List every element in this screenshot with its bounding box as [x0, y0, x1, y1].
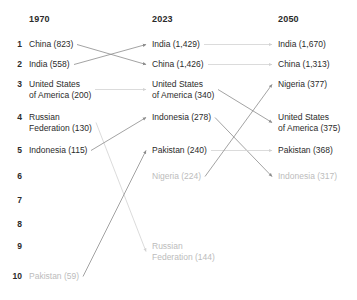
connection-indonesia-1-2 — [215, 118, 272, 177]
rank-number-2: 2 — [6, 59, 22, 69]
entry-1970-rank-10: Pakistan (59) — [29, 271, 79, 282]
entry-2023-rank-9: Russian Federation (144) — [152, 241, 215, 262]
rank-number-1: 1 — [6, 39, 22, 49]
connection-russian-federation-0-1 — [96, 123, 146, 252]
rank-number-7: 7 — [6, 195, 22, 205]
connection-pakistan-0-1 — [83, 151, 146, 277]
entry-2050-rank-6: Indonesia (317) — [278, 171, 337, 182]
rank-number-3: 3 — [6, 79, 22, 89]
rank-number-9: 9 — [6, 241, 22, 251]
connection-china-0-1 — [77, 45, 146, 65]
entry-2023-rank-5: Pakistan (240) — [152, 145, 207, 156]
connection-nigeria-1-2 — [205, 85, 272, 177]
rank-number-4: 4 — [6, 112, 22, 122]
rank-number-6: 6 — [6, 171, 22, 181]
entry-2050-rank-1: India (1,670) — [278, 39, 326, 50]
connection-united-states-of-america-1-2 — [218, 90, 272, 123]
entry-2050-rank-2: China (1,313) — [278, 59, 330, 70]
entry-2050-rank-5: Pakistan (368) — [278, 145, 333, 156]
connection-indonesia-0-1 — [91, 118, 146, 151]
connection-india-0-1 — [74, 45, 146, 65]
slope-chart: 19702023205012345678910China (823)India … — [0, 0, 357, 300]
entry-2023-rank-6: Nigeria (224) — [152, 171, 201, 182]
entry-1970-rank-1: China (823) — [29, 39, 73, 50]
entry-1970-rank-5: Indonesia (115) — [29, 145, 87, 156]
rank-number-10: 10 — [6, 271, 22, 281]
entry-2023-rank-3: United States of America (340) — [152, 79, 214, 100]
entry-2023-rank-4: Indonesia (278) — [152, 112, 211, 123]
entry-2023-rank-1: India (1,429) — [152, 39, 200, 50]
entry-2023-rank-2: China (1,426) — [152, 59, 204, 70]
rank-number-8: 8 — [6, 219, 22, 229]
column-header-2050: 2050 — [278, 14, 299, 24]
entry-1970-rank-4: Russian Federation (130) — [29, 112, 92, 133]
entry-1970-rank-3: United States of America (200) — [29, 79, 91, 100]
entry-1970-rank-2: India (558) — [29, 59, 70, 70]
rank-number-5: 5 — [6, 145, 22, 155]
entry-2050-rank-3: Nigeria (377) — [278, 79, 327, 90]
column-header-2023: 2023 — [152, 14, 173, 24]
entry-2050-rank-4: United States of America (375) — [278, 112, 340, 133]
column-header-1970: 1970 — [29, 14, 50, 24]
